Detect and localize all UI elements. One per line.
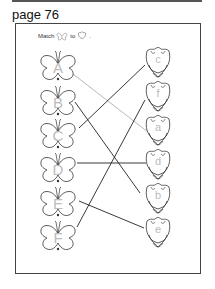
tulip-f[interactable]: f xyxy=(146,82,170,112)
svg-text:D: D xyxy=(53,161,64,178)
tulip-b[interactable]: b xyxy=(146,184,170,214)
svg-text:C: C xyxy=(53,127,64,144)
svg-text:d: d xyxy=(155,155,161,167)
matching-artwork: A B C D E F c f a d b e xyxy=(0,0,215,289)
svg-text:A: A xyxy=(53,59,63,76)
tulip-column: c f a d b e xyxy=(146,48,170,248)
svg-text:a: a xyxy=(155,121,162,133)
tulip-c[interactable]: c xyxy=(146,48,170,78)
butterfly-C[interactable]: C xyxy=(41,119,75,148)
svg-text:e: e xyxy=(155,223,161,235)
butterfly-E[interactable]: E xyxy=(41,187,75,216)
tulip-a[interactable]: a xyxy=(146,116,170,146)
butterfly-F[interactable]: F xyxy=(41,221,75,250)
tulip-e[interactable]: e xyxy=(146,218,170,248)
svg-text:B: B xyxy=(53,94,63,111)
connection-lines xyxy=(73,65,148,228)
butterfly-A[interactable]: A xyxy=(41,51,75,80)
svg-text:c: c xyxy=(155,53,161,65)
svg-text:b: b xyxy=(155,189,161,201)
butterfly-D[interactable]: D xyxy=(41,153,75,182)
svg-text:E: E xyxy=(53,195,63,212)
tulip-d[interactable]: d xyxy=(146,150,170,180)
connection-B-b xyxy=(75,102,140,193)
butterfly-column: A B C D E F xyxy=(41,51,75,250)
svg-text:F: F xyxy=(53,229,62,246)
butterfly-B[interactable]: B xyxy=(41,86,75,115)
